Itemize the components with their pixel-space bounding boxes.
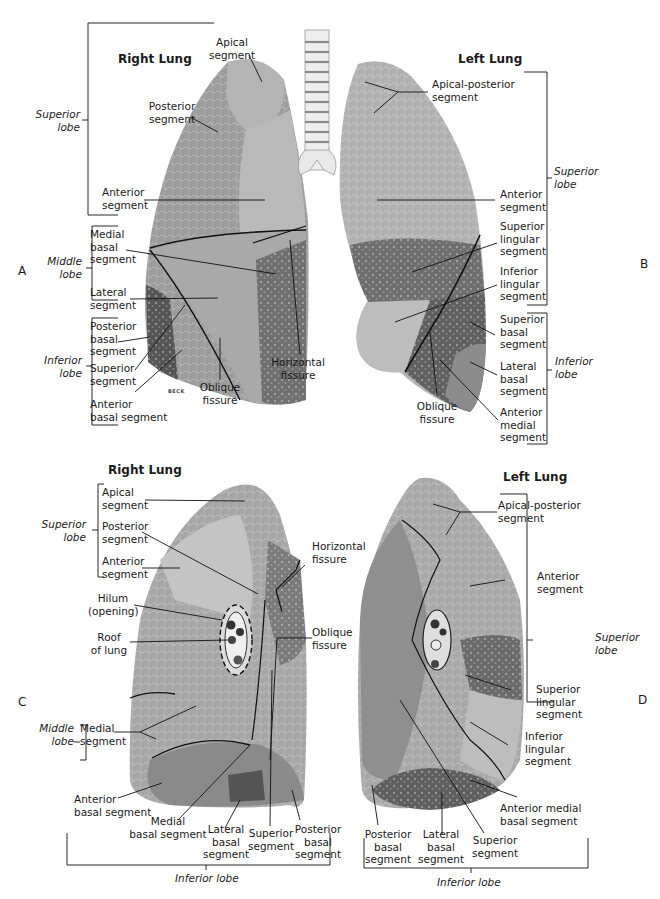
panel-c-posterior-segment: Posterior segment bbox=[102, 520, 148, 545]
panel-d-superior-segment: Superior segment bbox=[470, 834, 520, 859]
panel-letter-a: A bbox=[18, 264, 26, 278]
panel-c-hilum-opening: Hilum (opening) bbox=[88, 592, 138, 617]
panel-d-inferior-lingular-segment: Inferior lingular segment bbox=[525, 730, 571, 768]
panel-d-inferior-lobe: Inferior lobe bbox=[437, 876, 501, 889]
panel-c-apical-segment: Apical segment bbox=[102, 486, 148, 511]
panel-a-anterior-basal-segment: Anterior basal segment bbox=[90, 398, 167, 423]
panel-b-anterior-medial-segment: Anterior medial segment bbox=[500, 406, 546, 444]
panel-a-inferior-lobe: Inferior lobe bbox=[30, 354, 82, 379]
panel-a-posterior-segment: Posterior segment bbox=[142, 100, 202, 125]
trachea bbox=[298, 30, 336, 175]
panel-c-medial-basal-segment: Medial basal segment bbox=[128, 815, 208, 840]
panel-c-superior-lobe: Superior lobe bbox=[30, 518, 86, 543]
panel-a-horizontal-fissure: Horizontal fissure bbox=[268, 356, 328, 381]
panel-a-superior-segment: Superior segment bbox=[90, 362, 136, 387]
panel-b-superior-lingular-segment: Superior lingular segment bbox=[500, 220, 546, 258]
artist-signature: BECK bbox=[168, 388, 185, 394]
panel-letter-d: D bbox=[638, 693, 647, 707]
panel-c-inferior-lobe: Inferior lobe bbox=[175, 872, 239, 885]
panel-c-middle-lobe: Middle lobe bbox=[20, 722, 74, 747]
panel-c-oblique-fissure: Oblique fissure bbox=[312, 626, 353, 651]
panel-c-superior-segment: Superior segment bbox=[246, 827, 296, 852]
panel-a-title: Right Lung bbox=[118, 52, 192, 66]
panel-b-lateral-basal-segment: Lateral basal segment bbox=[500, 360, 546, 398]
panel-a-anterior-segment: Anterior segment bbox=[102, 186, 148, 211]
panel-b-inferior-lobe: Inferior lobe bbox=[555, 355, 593, 380]
panel-b-anterior-segment: Anterior segment bbox=[500, 188, 546, 213]
panel-c-posterior-basal-segment: Posterior basal segment bbox=[293, 823, 343, 861]
panel-d-apical-posterior-segment: Apical-posterior segment bbox=[498, 499, 581, 524]
panel-d-left-lung-medial bbox=[358, 478, 524, 810]
panel-a-apical-segment: Apical segment bbox=[202, 36, 262, 61]
panel-d-title: Left Lung bbox=[503, 470, 567, 484]
panel-a-superior-lobe: Superior lobe bbox=[30, 108, 80, 133]
panel-c-medial-segment: Medial segment bbox=[80, 722, 126, 747]
panel-b-left-lung bbox=[340, 61, 486, 412]
panel-a-lateral-segment: Lateral segment bbox=[90, 286, 136, 311]
panel-a-middle-lobe: Middle lobe bbox=[30, 255, 82, 280]
panel-letter-b: B bbox=[640, 257, 648, 271]
panel-d-lateral-basal-segment: Lateral basal segment bbox=[418, 828, 464, 866]
panel-b-superior-basal-segment: Superior basal segment bbox=[500, 313, 546, 351]
panel-c-anterior-segment: Anterior segment bbox=[102, 555, 148, 580]
panel-b-superior-lobe: Superior lobe bbox=[554, 165, 598, 190]
panel-c-roof-of-lung: Roof of lung bbox=[88, 631, 130, 656]
panel-d-anterior-medial-basal-segment: Anterior medial basal segment bbox=[500, 802, 581, 827]
panel-d-superior-lingular-segment: Superior lingular segment bbox=[536, 683, 582, 721]
panel-b-title: Left Lung bbox=[458, 52, 522, 66]
panel-b-oblique-fissure: Oblique fissure bbox=[412, 400, 462, 425]
panel-c-right-lung-medial bbox=[130, 484, 307, 807]
panel-c-title: Right Lung bbox=[108, 463, 182, 477]
panel-a-posterior-basal-segment: Posterior basal segment bbox=[90, 320, 136, 358]
panel-a-medial-basal-segment: Medial basal segment bbox=[90, 228, 136, 266]
panel-a-oblique-fissure: Oblique fissure bbox=[195, 381, 245, 406]
panel-d-superior-lobe: Superior lobe bbox=[595, 631, 639, 656]
panel-letter-c: C bbox=[18, 695, 26, 709]
panel-d-anterior-segment: Anterior segment bbox=[537, 570, 583, 595]
panel-b-inferior-lingular-segment: Inferior lingular segment bbox=[500, 265, 546, 303]
panel-c-horizontal-fissure: Horizontal fissure bbox=[312, 540, 366, 565]
panel-b-apical-posterior-segment: Apical-posterior segment bbox=[432, 78, 515, 103]
panel-d-posterior-basal-segment: Posterior basal segment bbox=[364, 828, 412, 866]
panel-c-lateral-basal-segment: Lateral basal segment bbox=[203, 823, 249, 861]
